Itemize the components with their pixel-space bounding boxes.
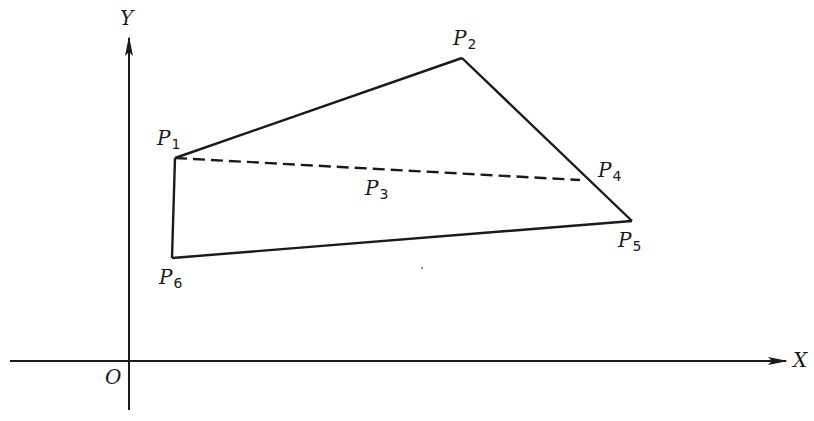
edge-p1-p2 — [175, 58, 462, 158]
speck-mark — [421, 267, 423, 269]
point-label-p4: P4 — [598, 160, 621, 183]
point-letter: P — [598, 158, 611, 182]
point-letter: P — [618, 228, 631, 252]
point-label-p3: P3 — [365, 178, 388, 201]
point-subscript: 6 — [173, 275, 182, 291]
polygon-diagram — [0, 0, 814, 421]
edge-p6-p1 — [172, 158, 175, 258]
point-label-p5: P5 — [618, 230, 641, 253]
point-subscript: 2 — [467, 36, 476, 52]
edge-p2-p5 — [462, 58, 632, 221]
point-letter: P — [365, 176, 378, 200]
point-label-p6: P6 — [159, 267, 182, 290]
point-letter: P — [159, 265, 172, 289]
point-subscript: 3 — [379, 186, 388, 202]
y-axis-label: Y — [120, 8, 133, 28]
point-letter: P — [453, 26, 466, 50]
edge-p5-p6 — [172, 221, 632, 258]
x-axis-label: X — [793, 350, 807, 370]
point-subscript: 1 — [171, 136, 180, 152]
point-subscript: 4 — [612, 168, 621, 184]
point-subscript: 5 — [632, 238, 641, 254]
point-label-p1: P1 — [157, 128, 180, 151]
point-letter: P — [157, 126, 170, 150]
origin-label: O — [105, 367, 121, 387]
point-label-p2: P2 — [453, 28, 476, 51]
